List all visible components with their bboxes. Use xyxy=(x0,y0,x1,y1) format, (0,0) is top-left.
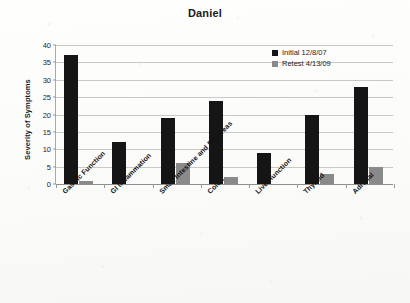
y-axis-tick-label: 40 xyxy=(43,41,51,50)
square-swatch-icon xyxy=(272,50,278,56)
x-axis-tick-mark xyxy=(346,184,347,188)
y-axis-tick-label: 0 xyxy=(47,180,51,189)
y-axis-tick-label: 25 xyxy=(43,93,51,102)
legend-item-label: Retest 4/13/09 xyxy=(282,59,331,68)
x-axis-tick-mark xyxy=(153,184,154,188)
plot-area: 0510152025303540 xyxy=(55,45,393,184)
bar[interactable] xyxy=(64,55,78,184)
bar[interactable] xyxy=(79,181,93,184)
bar[interactable] xyxy=(354,87,368,184)
x-axis-tick-mark xyxy=(201,184,202,188)
y-axis-title: Severity of Symptoms xyxy=(23,55,32,185)
x-axis-tick-mark xyxy=(297,184,298,188)
chart-title: Daniel xyxy=(0,7,410,19)
legend-item[interactable]: Initial 12/8/07 xyxy=(272,48,331,57)
y-axis-tick-label: 10 xyxy=(43,145,51,154)
x-axis-tick-mark xyxy=(249,184,250,188)
bar-group xyxy=(201,45,249,184)
bar-group xyxy=(346,45,394,184)
x-axis-tick-mark xyxy=(56,184,57,188)
y-axis-tick-label: 35 xyxy=(43,58,51,67)
chart-legend: Initial 12/8/07Retest 4/13/09 xyxy=(272,48,331,68)
legend-item-label: Initial 12/8/07 xyxy=(282,48,327,57)
square-swatch-icon xyxy=(272,61,278,67)
bar-chart: Daniel Severity of Symptoms 051015202530… xyxy=(0,0,410,303)
y-axis-tick-label: 5 xyxy=(47,162,51,171)
x-axis-tick-mark xyxy=(104,184,105,188)
y-axis-tick-label: 15 xyxy=(43,127,51,136)
bar[interactable] xyxy=(224,177,238,184)
gridline xyxy=(56,184,393,185)
legend-item[interactable]: Retest 4/13/09 xyxy=(272,59,331,68)
y-axis-tick-label: 20 xyxy=(43,110,51,119)
y-axis-tick-label: 30 xyxy=(43,75,51,84)
x-axis-tick-mark xyxy=(394,184,395,188)
